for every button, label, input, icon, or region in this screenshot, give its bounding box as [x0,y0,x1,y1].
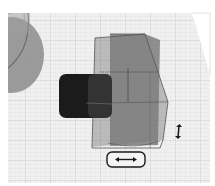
dark-box-object[interactable] [59,74,112,118]
workplane-viewport[interactable]: double-arrow-vertical-icon double-arrow-… [0,0,215,186]
horizontal-move-handle[interactable]: double-arrow-horizontal-icon [107,152,145,167]
